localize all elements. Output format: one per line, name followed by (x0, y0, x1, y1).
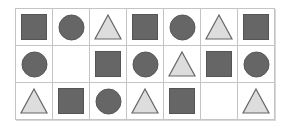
circle-icon (58, 14, 85, 41)
grid-cell-r1-c2 (53, 9, 90, 46)
grid-cell-r2-c6 (201, 46, 238, 83)
triangle-icon (131, 88, 159, 114)
circle-icon (95, 88, 122, 115)
square-icon (169, 88, 195, 114)
grid-cell-r1-c5 (164, 9, 201, 46)
grid-cell-r3-c7 (238, 83, 275, 120)
triangle-icon (242, 88, 270, 114)
grid-cell-r2-c3 (90, 46, 127, 83)
grid-cell-r3-c5 (164, 83, 201, 120)
grid-cell-r3-c2 (53, 83, 90, 120)
grid-cell-r1-c1 (16, 9, 53, 46)
grid-cell-r3-c3 (90, 83, 127, 120)
square-icon (243, 14, 269, 40)
triangle-icon (205, 14, 233, 40)
circle-icon (169, 14, 196, 41)
circle-icon (21, 51, 48, 78)
square-icon (21, 14, 47, 40)
grid-cell-r3-c1 (16, 83, 53, 120)
triangle-icon (94, 14, 122, 40)
square-icon (132, 14, 158, 40)
grid-cell-r2-c5 (164, 46, 201, 83)
grid-cell-r2-c2 (53, 46, 90, 83)
grid-cell-r3-c6 (201, 83, 238, 120)
grid-cell-r1-c7 (238, 9, 275, 46)
grid-cell-r2-c1 (16, 46, 53, 83)
grid-cell-r1-c3 (90, 9, 127, 46)
shape-grid (15, 8, 275, 120)
grid-cell-r3-c4 (127, 83, 164, 120)
grid-cell-r1-c4 (127, 9, 164, 46)
circle-icon (243, 51, 270, 78)
square-icon (58, 88, 84, 114)
square-icon (206, 51, 232, 77)
triangle-icon (20, 88, 48, 114)
grid-cell-r2-c4 (127, 46, 164, 83)
grid-cell-r2-c7 (238, 46, 275, 83)
square-icon (95, 51, 121, 77)
triangle-icon (168, 51, 196, 77)
grid-cell-r1-c6 (201, 9, 238, 46)
circle-icon (132, 51, 159, 78)
